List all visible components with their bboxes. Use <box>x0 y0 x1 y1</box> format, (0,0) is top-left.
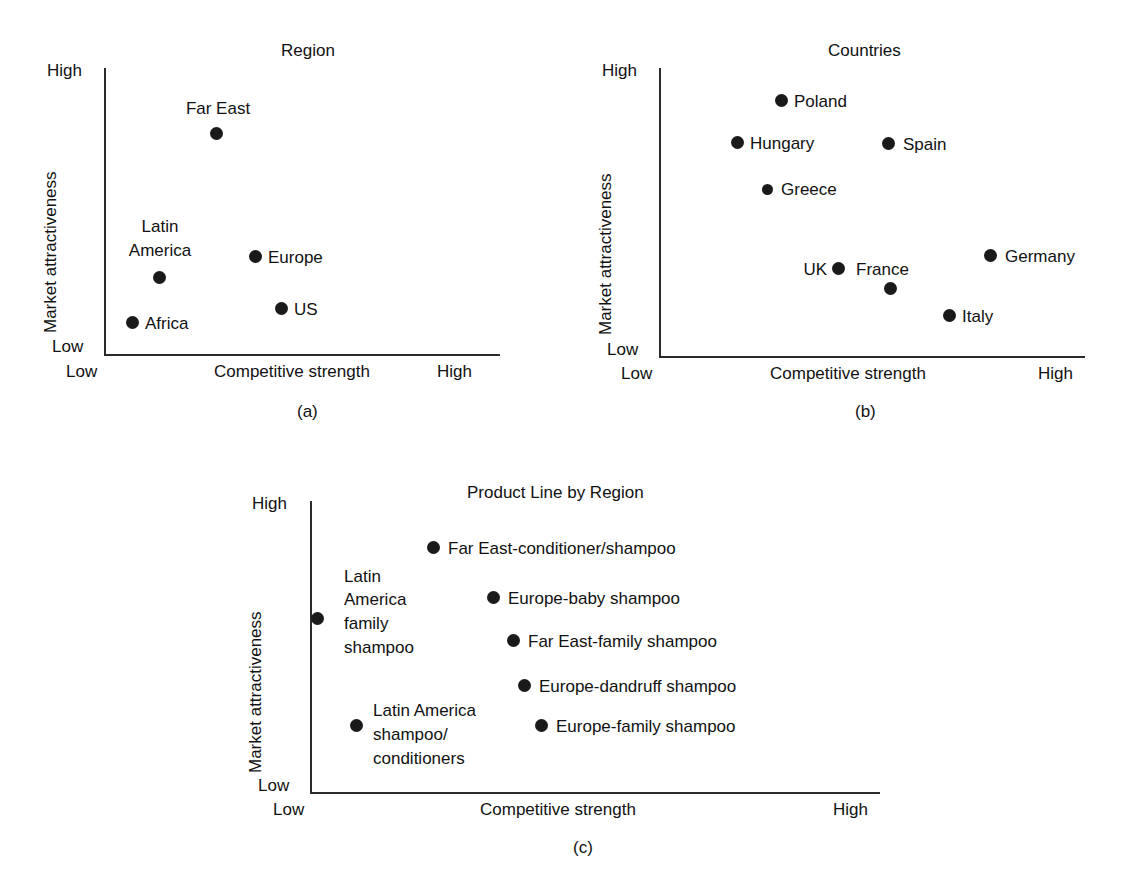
panel-c-y-axis <box>310 501 312 794</box>
data-label-europe-baby-shampoo: Europe-baby shampoo <box>508 588 680 610</box>
data-point-far-east-family-shampoo[interactable] <box>507 634 520 647</box>
data-point-europe-family-shampoo[interactable] <box>535 719 548 732</box>
data-point-europe-baby-shampoo[interactable] <box>487 591 500 604</box>
panel-c-x-tick-high: High <box>833 800 868 820</box>
data-label-europe-family-shampoo: Europe-family shampoo <box>556 716 736 738</box>
data-label-latin-america-family-shampoo-line2: America <box>344 589 406 611</box>
panel-c-x-axis <box>310 792 880 794</box>
data-point-latin-america-family-shampoo[interactable] <box>311 612 324 625</box>
data-label-latin-america-family-shampoo-line4: shampoo <box>344 637 414 659</box>
data-label-latin-america-shampoo-conditioners-line3: conditioners <box>373 748 465 770</box>
data-point-europe-dandruff-shampoo[interactable] <box>518 679 531 692</box>
panel-c-caption: (c) <box>573 838 593 858</box>
panel-c-y-axis-label: Market attractiveness <box>246 611 266 773</box>
panel-c-x-tick-low: Low <box>273 800 304 820</box>
data-label-latin-america-shampoo-conditioners-line2: shampoo/ <box>373 724 448 746</box>
panel-c-y-tick-low: Low <box>258 776 289 796</box>
data-point-far-east-conditioner-shampoo[interactable] <box>427 541 440 554</box>
data-label-far-east-family-shampoo: Far East-family shampoo <box>528 631 717 653</box>
panel-c-y-tick-high: High <box>252 494 287 514</box>
panel-c-x-axis-label: Competitive strength <box>480 800 636 820</box>
data-point-latin-america-shampoo-conditioners[interactable] <box>350 719 363 732</box>
data-label-latin-america-shampoo-conditioners-line1: Latin America <box>373 700 476 722</box>
data-label-latin-america-family-shampoo-line1: Latin <box>344 566 381 588</box>
data-label-latin-america-family-shampoo-line3: family <box>344 613 388 635</box>
data-label-far-east-conditioner-shampoo: Far East-conditioner/shampoo <box>448 538 676 560</box>
chart-panel-c: Product Line by Region Market attractive… <box>0 0 1145 880</box>
panel-c-title: Product Line by Region <box>467 483 644 503</box>
data-label-europe-dandruff-shampoo: Europe-dandruff shampoo <box>539 676 736 698</box>
